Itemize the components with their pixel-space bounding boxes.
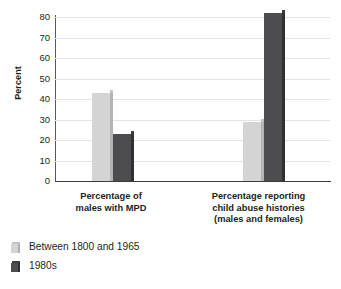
y-tick-label-40: 40 bbox=[24, 94, 50, 104]
bar-side-shade bbox=[131, 134, 134, 181]
bar-side-shade bbox=[282, 13, 285, 181]
x-axis-category-label-1-line-2: (males and females) bbox=[186, 214, 331, 226]
y-tick-label-60: 60 bbox=[24, 53, 50, 63]
legend-swatch-1 bbox=[11, 261, 20, 272]
gridline-80 bbox=[55, 17, 330, 18]
bar-series-1-category-1 bbox=[264, 13, 282, 181]
gridline-50 bbox=[55, 79, 330, 80]
y-tick-label-0: 0 bbox=[24, 176, 50, 186]
chart-legend: Between 1800 and 19651980s bbox=[11, 238, 139, 276]
legend-swatch-0 bbox=[11, 242, 20, 253]
x-axis-category-label-1-line-1: child abuse histories bbox=[186, 203, 331, 215]
bar-face bbox=[113, 134, 131, 181]
x-axis-category-label-1: Percentage reportingchild abuse historie… bbox=[186, 191, 331, 226]
bar-face bbox=[92, 93, 110, 181]
y-tick-label-80: 80 bbox=[24, 12, 50, 22]
bar-series-0-category-0 bbox=[92, 93, 110, 181]
x-axis-category-label-0-line-0: Percentage of bbox=[46, 191, 176, 203]
legend-item-1[interactable]: 1980s bbox=[11, 257, 139, 276]
bar-top-shade bbox=[131, 131, 134, 134]
bar-top-shade bbox=[282, 10, 285, 13]
y-tick-label-10: 10 bbox=[24, 156, 50, 166]
bar-top-shade bbox=[110, 90, 113, 93]
y-tick-label-70: 70 bbox=[24, 33, 50, 43]
gridline-60 bbox=[55, 58, 330, 59]
legend-label-1: 1980s bbox=[29, 261, 57, 271]
y-tick-label-20: 20 bbox=[24, 135, 50, 145]
bar-series-0-category-1 bbox=[243, 122, 261, 181]
x-axis-category-label-0-line-1: males with MPD bbox=[46, 203, 176, 215]
bar-series-1-category-0 bbox=[113, 134, 131, 181]
bar-chart-figure: Percent 80706050403020100 Percentage ofm… bbox=[0, 0, 341, 289]
x-axis-category-label-0: Percentage ofmales with MPD bbox=[46, 191, 176, 214]
bar-face bbox=[243, 122, 261, 181]
y-tick-label-50: 50 bbox=[24, 74, 50, 84]
y-tick-label-30: 30 bbox=[24, 115, 50, 125]
legend-label-0: Between 1800 and 1965 bbox=[29, 242, 139, 252]
x-axis-category-label-1-line-0: Percentage reporting bbox=[186, 191, 331, 203]
bar-face bbox=[264, 13, 282, 181]
legend-item-0[interactable]: Between 1800 and 1965 bbox=[11, 238, 139, 257]
gridline-70 bbox=[55, 38, 330, 39]
plot-area bbox=[55, 17, 330, 181]
